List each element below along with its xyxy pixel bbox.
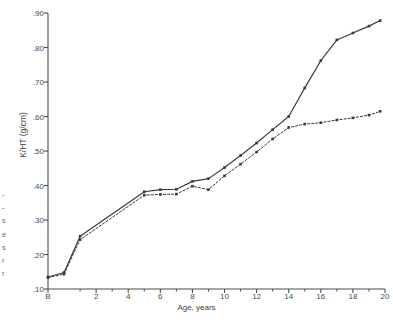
data-point-marker [63,273,66,276]
data-point-marker [320,59,323,62]
data-point-marker [287,115,290,118]
data-point-marker [255,151,258,154]
data-point-marker [255,142,258,145]
data-point-marker [207,188,210,191]
data-point-marker [271,138,274,141]
data-curves [48,21,380,278]
data-point-marker [239,154,242,157]
data-point-marker [287,126,290,129]
data-point-marker [143,190,146,193]
data-point-marker [223,166,226,169]
data-point-marker [175,193,178,196]
axis-lines [48,13,385,289]
data-point-marker [303,87,306,90]
data-point-marker [143,194,146,197]
data-point-marker [368,114,371,117]
data-point-marker [223,175,226,178]
data-point-marker [336,39,339,42]
data-point-markers [47,19,382,279]
data-point-marker [379,19,382,22]
data-point-marker [336,119,339,122]
solid-curve [48,21,380,277]
chart-figure: - - s e s r r K/HT (g/cm) Age, years .10… [0,0,393,322]
data-point-marker [175,188,178,191]
data-point-marker [303,123,306,126]
data-point-marker [320,121,323,124]
data-point-marker [379,110,382,113]
data-point-marker [239,163,242,166]
data-point-marker [207,177,210,180]
data-point-marker [271,128,274,131]
data-point-marker [79,235,82,238]
data-point-marker [191,180,194,183]
data-point-marker [368,25,371,28]
data-point-marker [191,185,194,188]
dashed-curve [48,111,380,277]
axis-tick-marks [44,13,385,293]
data-point-marker [159,193,162,196]
plot-area [0,0,393,322]
data-point-marker [352,117,355,120]
data-point-marker [47,276,50,279]
data-point-marker [159,188,162,191]
data-point-marker [352,32,355,35]
data-point-marker [79,238,82,241]
